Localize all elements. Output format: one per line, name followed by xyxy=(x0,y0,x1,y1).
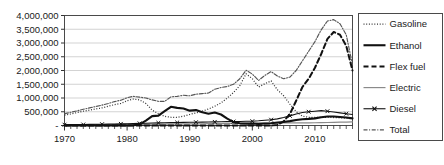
line-chart: -500,0001,000,0001,500,0002,000,0002,500… xyxy=(0,0,444,165)
x-tick-label: 2000 xyxy=(242,133,263,144)
x-tick-label: 1980 xyxy=(117,133,138,144)
legend-label: Total xyxy=(390,124,410,135)
series-line-total xyxy=(65,20,353,114)
legend: GasolineEthanolFlex fuelElectricDieselTo… xyxy=(359,14,443,141)
x-tick-label: 2010 xyxy=(304,133,325,144)
x-axis: 19701980199020002010 xyxy=(54,126,353,145)
legend-label: Diesel xyxy=(390,103,416,114)
y-tick-label: 1,500,000 xyxy=(16,79,58,90)
legend-label: Electric xyxy=(390,82,421,93)
y-tick-label: 2,500,000 xyxy=(16,51,58,62)
gridlines xyxy=(65,16,353,112)
x-tick-label: 1990 xyxy=(179,133,200,144)
legend-label: Ethanol xyxy=(390,40,422,51)
legend-label: Gasoline xyxy=(390,18,428,29)
series-group xyxy=(63,20,353,127)
y-tick-label: 1,000,000 xyxy=(16,92,58,103)
y-tick-label: 2,000,000 xyxy=(16,65,58,76)
y-tick-label: - xyxy=(55,120,58,131)
chart-canvas: -500,0001,000,0001,500,0002,000,0002,500… xyxy=(0,0,444,165)
legend-box xyxy=(359,14,443,141)
x-tick-label: 1970 xyxy=(54,133,75,144)
y-tick-label: 4,000,000 xyxy=(16,10,58,21)
legend-label: Flex fuel xyxy=(390,61,426,72)
y-tick-label: 3,000,000 xyxy=(16,37,58,48)
y-tick-label: 3,500,000 xyxy=(16,24,58,35)
y-tick-label: 500,000 xyxy=(24,106,58,117)
y-axis: -500,0001,000,0001,500,0002,000,0002,500… xyxy=(16,10,64,131)
